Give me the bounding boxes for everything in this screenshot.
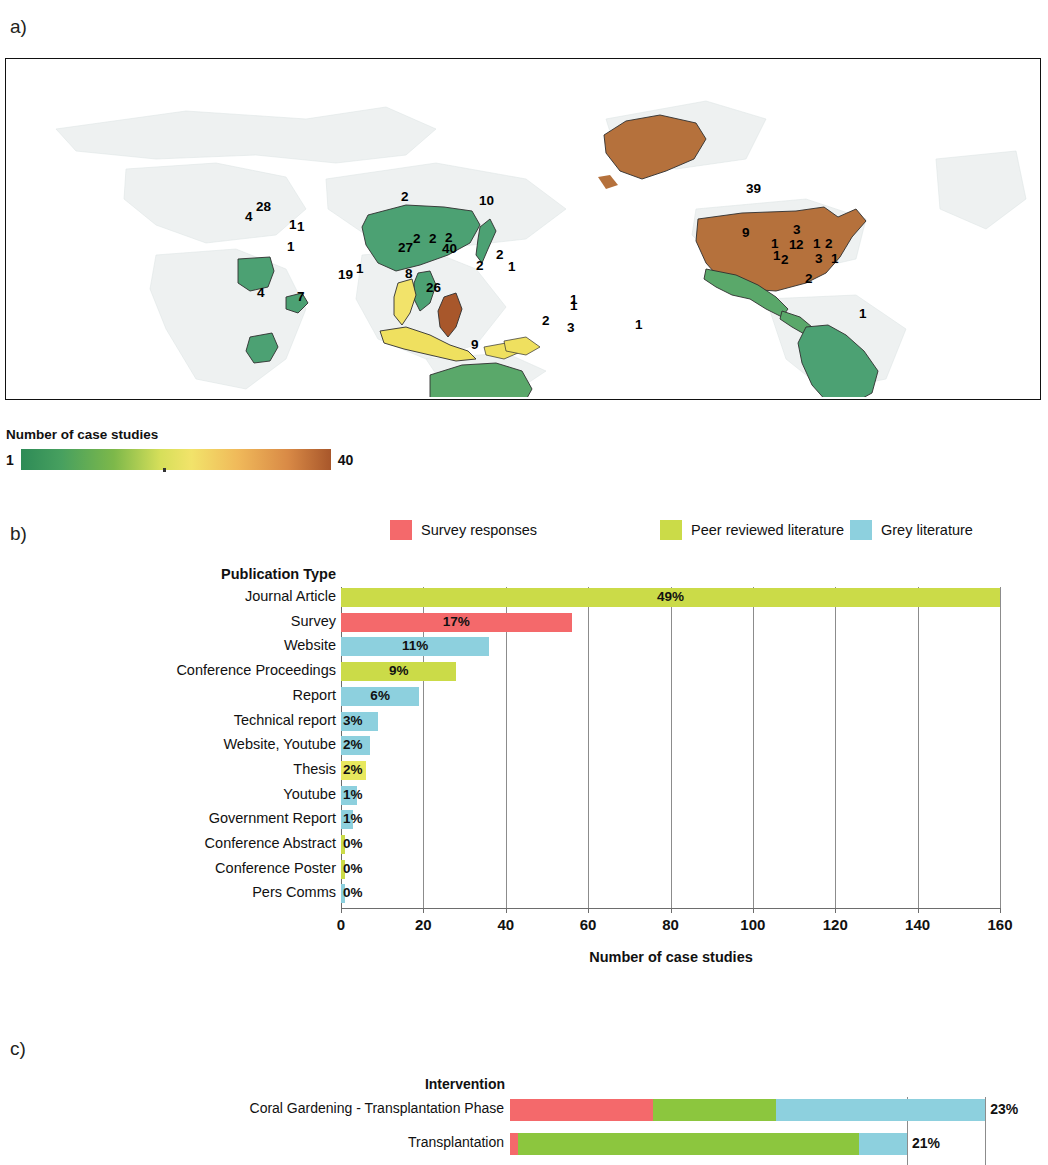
publication-type-bar-value: 0%: [343, 836, 363, 851]
publication-type-row[interactable]: Website, Youtube2%: [341, 735, 1000, 760]
x-axis-tick: [753, 908, 754, 913]
colorbar-title: Number of case studies: [6, 427, 426, 442]
legend-item[interactable]: Peer reviewed literature: [660, 520, 850, 540]
intervention-bar-value: 23%: [990, 1101, 1018, 1117]
publication-type-category-label: Pers Comms: [0, 884, 336, 900]
x-axis-tick: [506, 908, 507, 913]
publication-type-row[interactable]: Government Report1%: [341, 809, 1000, 834]
publication-type-bar-value: 17%: [443, 614, 470, 629]
publication-type-category-label: Government Report: [0, 810, 336, 826]
publication-type-row[interactable]: Youtube1%: [341, 785, 1000, 810]
publication-type-category-label: Technical report: [0, 712, 336, 728]
map-count-label: 1: [570, 299, 578, 313]
publication-type-row[interactable]: Conference Proceedings9%: [341, 661, 1000, 686]
publication-type-row[interactable]: Conference Abstract0%: [341, 834, 1000, 859]
map-count-label: 2: [476, 259, 484, 273]
intervention-bar-segment[interactable]: [518, 1133, 859, 1155]
x-axis-tick-label: 60: [580, 916, 597, 933]
publication-type-bar-value: 1%: [343, 787, 363, 802]
publication-type-row[interactable]: Thesis2%: [341, 760, 1000, 785]
publication-type-category-label: Thesis: [0, 761, 336, 777]
publication-type-category-label: Website, Youtube: [0, 736, 336, 752]
publication-type-bar-value: 0%: [343, 885, 363, 900]
map-count-label: 1: [831, 252, 839, 266]
map-count-label: 3: [793, 223, 801, 237]
map-count-label: 1: [297, 220, 305, 234]
legend-item[interactable]: Grey literature: [850, 520, 973, 540]
map-count-label: 1: [287, 240, 295, 254]
publication-type-bar-value: 2%: [343, 737, 363, 752]
map-count-label: 2: [413, 232, 421, 246]
colorbar-min-label: 1: [6, 452, 14, 468]
publication-type-row[interactable]: Survey17%: [341, 612, 1000, 637]
intervention-chart: Intervention Coral Gardening - Transplan…: [0, 1076, 1048, 1165]
intervention-bar-segment[interactable]: [859, 1133, 907, 1155]
map-count-label: 2: [825, 237, 833, 251]
map-colorbar: Number of case studies 1 40: [6, 427, 426, 470]
publication-type-row[interactable]: Conference Poster0%: [341, 859, 1000, 884]
map-count-label: 2: [429, 232, 437, 246]
publication-type-category-label: Conference Poster: [0, 860, 336, 876]
intervention-bar-segment[interactable]: [510, 1099, 653, 1121]
publication-type-bars: Journal Article49%Survey17%Website11%Con…: [341, 587, 1000, 908]
intervention-category-label: Transplantation: [0, 1134, 504, 1150]
publication-type-row[interactable]: Pers Comms0%: [341, 883, 1000, 908]
x-axis-tick: [588, 908, 589, 913]
publication-type-category-label: Website: [0, 637, 336, 653]
publication-type-category-label: Youtube: [0, 786, 336, 802]
map-count-label: 4: [245, 210, 253, 224]
legend-item[interactable]: Survey responses: [390, 520, 660, 540]
publication-type-bar-value: 1%: [343, 811, 363, 826]
x-axis-tick-label: 140: [905, 916, 930, 933]
publication-type-category-label: Journal Article: [0, 588, 336, 604]
map-count-label: 2: [805, 272, 813, 286]
publication-type-chart: Publication Type Journal Article49%Surve…: [0, 566, 1048, 1006]
publication-type-category-label: Survey: [0, 613, 336, 629]
intervention-category-label: Coral Gardening - Transplantation Phase: [0, 1100, 504, 1116]
map-count-label: 1: [508, 260, 516, 274]
intervention-bar-segment[interactable]: [653, 1099, 777, 1121]
map-count-label: 1: [859, 307, 867, 321]
legend-item-label: Grey literature: [881, 522, 973, 538]
publication-type-x-axis-label: Number of case studies: [341, 949, 1001, 965]
colorbar-gradient: [21, 449, 331, 470]
publication-type-row[interactable]: Technical report3%: [341, 711, 1000, 736]
x-axis-tick-label: 20: [415, 916, 432, 933]
x-axis-tick: [671, 908, 672, 913]
map-count-label: 1: [813, 237, 821, 251]
colorbar-max-label: 40: [338, 452, 354, 468]
panel-label-a: a): [10, 16, 27, 38]
map-count-label: 26: [426, 281, 441, 295]
map-count-label: 2: [496, 248, 504, 262]
map-count-label: 9: [471, 338, 479, 352]
map-count-label: 7: [297, 290, 305, 304]
x-axis-tick-label: 120: [823, 916, 848, 933]
publication-type-bar-value: 2%: [343, 762, 363, 777]
intervention-bar-segment[interactable]: [510, 1133, 518, 1155]
chart-legend: Survey responsesPeer reviewed literature…: [390, 520, 973, 540]
map-count-label: 27: [398, 241, 413, 255]
panel-label-c: c): [10, 1038, 26, 1060]
map-count-label: 3: [815, 252, 823, 266]
panel-label-b: b): [10, 523, 27, 545]
intervention-row[interactable]: Transplantation21%: [510, 1131, 1000, 1165]
publication-type-bar-value: 11%: [402, 638, 428, 653]
map-count-label: 1: [289, 218, 297, 232]
intervention-row[interactable]: Coral Gardening - Transplantation Phase2…: [510, 1097, 1000, 1131]
publication-type-row[interactable]: Journal Article49%: [341, 587, 1000, 612]
publication-type-category-label: Conference Proceedings: [0, 662, 336, 678]
map-region-china: [362, 205, 480, 271]
intervention-stacked-bar[interactable]: [510, 1133, 907, 1155]
publication-type-row[interactable]: Report6%: [341, 686, 1000, 711]
intervention-stacked-bar[interactable]: [510, 1099, 985, 1121]
map-count-label: 1: [773, 249, 781, 263]
map-count-label: 4: [257, 286, 265, 300]
publication-type-row[interactable]: Website11%: [341, 636, 1000, 661]
intervention-bar-segment[interactable]: [776, 1099, 985, 1121]
map-count-label: 19: [338, 268, 353, 282]
publication-type-bar-value: 3%: [343, 713, 363, 728]
intervention-header: Intervention: [0, 1076, 505, 1092]
map-count-label: 9: [742, 226, 750, 240]
publication-type-bar-value: 49%: [657, 589, 684, 604]
gridline: [1000, 587, 1001, 908]
